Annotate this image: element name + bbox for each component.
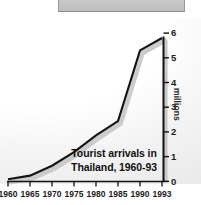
y-tick-label-0: 0 — [171, 177, 176, 187]
x-tick-label-1970: 1970 — [40, 190, 64, 199]
chart-title-line-1: Tourist arrivals in — [62, 146, 166, 160]
x-tick-label-1980: 1980 — [84, 190, 108, 199]
y-tick-label-4: 4 — [171, 78, 176, 88]
y-tick-label-5: 5 — [171, 53, 176, 63]
chart-title: Tourist arrivals in Thailand, 1960-93 — [62, 146, 166, 174]
y-tick-label-1: 1 — [171, 152, 176, 162]
line-chart: 0 1 2 3 4 5 6 millions 1960 1965 1970 19… — [0, 0, 201, 205]
x-tick-label-1990: 1990 — [128, 190, 152, 199]
y-tick-label-2: 2 — [171, 127, 176, 137]
x-tick-label-1985: 1985 — [106, 190, 130, 199]
x-tick-label-1960: 1960 — [0, 190, 20, 199]
x-tick-label-1993: 1993 — [150, 190, 174, 199]
y-tick-label-6: 6 — [171, 28, 176, 38]
x-tick-label-1975: 1975 — [62, 190, 86, 199]
chart-figure: 0 1 2 3 4 5 6 millions 1960 1965 1970 19… — [0, 0, 201, 205]
x-tick-label-1965: 1965 — [18, 190, 42, 199]
y-axis-unit-label: millions — [172, 88, 182, 121]
chart-title-line-2: Thailand, 1960-93 — [62, 160, 166, 174]
